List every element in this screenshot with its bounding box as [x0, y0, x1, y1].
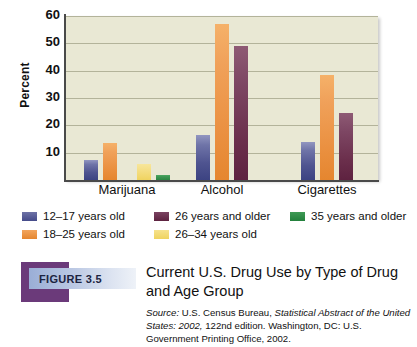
- bar-cigarettes-18-25: [320, 75, 334, 180]
- y-tick-30: 30: [46, 90, 60, 103]
- figure-badge: FIGURE 3.5: [29, 268, 136, 289]
- figure-title: Current U.S. Drug Use by Type of Drug an…: [146, 263, 408, 300]
- y-tick-60: 60: [46, 8, 60, 21]
- legend-swatch-green-icon: [290, 212, 305, 221]
- legend-label-26-34: 26–34 years old: [175, 229, 257, 241]
- bar-marijuana-12-17: [84, 160, 98, 181]
- legend-swatch-yellow-icon: [154, 230, 169, 239]
- bar-cigarettes-12-17: [301, 142, 315, 180]
- figure-source: Source: U.S. Census Bureau, Statistical …: [146, 306, 414, 345]
- legend-swatch-orange-icon: [22, 230, 37, 239]
- legend-swatch-blue-icon: [22, 212, 37, 221]
- bar-alcohol-26-older: [234, 46, 248, 180]
- legend-item-26-34: 26–34 years old: [154, 229, 257, 241]
- bar-marijuana-18-25: [103, 143, 117, 180]
- category-label-alcohol: Alcohol: [201, 182, 244, 197]
- chart-legend: 12–17 years old 18–25 years old 26 years…: [22, 211, 407, 247]
- figure-caption-block: FIGURE 3.5 Current U.S. Drug Use by Type…: [0, 258, 417, 347]
- bar-marijuana-26-34: [137, 164, 151, 180]
- y-tick-50: 50: [46, 35, 60, 48]
- legend-label-35-older: 35 years and older: [311, 211, 406, 223]
- source-lead: Source:: [146, 307, 179, 318]
- legend-swatch-red-icon: [154, 212, 169, 221]
- legend-label-26-older: 26 years and older: [175, 211, 270, 223]
- y-tick-40: 40: [46, 62, 60, 75]
- x-axis-category-labels: Marijuana Alcohol Cigarettes: [65, 182, 378, 202]
- category-label-marijuana: Marijuana: [98, 182, 155, 197]
- y-tick-10: 10: [46, 144, 60, 157]
- bar-alcohol-18-25: [215, 24, 229, 180]
- figure-chart: Percent 60 50 40 30 20 10: [0, 0, 417, 205]
- bar-alcohol-12-17: [196, 135, 210, 180]
- legend-item-12-17: 12–17 years old: [22, 211, 125, 223]
- figure-number-label: FIGURE 3.5: [39, 273, 102, 285]
- legend-label-18-25: 18–25 years old: [43, 229, 125, 241]
- legend-item-35-older: 35 years and older: [290, 211, 406, 223]
- bar-cigarettes-26-older: [339, 113, 353, 180]
- legend-label-12-17: 12–17 years old: [43, 211, 125, 223]
- legend-item-26-older: 26 years and older: [154, 211, 270, 223]
- y-axis-line: [64, 14, 66, 182]
- legend-item-18-25: 18–25 years old: [22, 229, 125, 241]
- plot-area: [65, 16, 378, 180]
- y-axis-tick-labels: 60 50 40 30 20 10: [30, 14, 60, 180]
- source-part1: U.S. Census Bureau,: [179, 307, 274, 318]
- gridline-60: [65, 16, 378, 17]
- y-tick-20: 20: [46, 117, 60, 130]
- category-label-cigarettes: Cigarettes: [297, 182, 356, 197]
